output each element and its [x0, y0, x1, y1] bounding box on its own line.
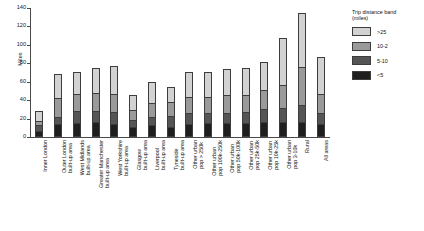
- bar-segment-<5: [224, 124, 230, 136]
- legend-title: Trip distance band (miles): [352, 9, 422, 22]
- bar-segment-<5: [299, 123, 305, 136]
- bar-13: [279, 38, 287, 138]
- bar-segment->25: [36, 112, 42, 121]
- bar-2: [73, 72, 81, 137]
- bar-5: [129, 95, 137, 137]
- bar-segment-10-2: [205, 98, 211, 114]
- bar-segment-5-10: [93, 112, 99, 123]
- bar-segment-10-2: [149, 104, 155, 118]
- bar-segment->25: [318, 58, 324, 95]
- bar-9: [204, 72, 212, 137]
- bar-segment-10-2: [168, 103, 174, 118]
- bar-segment-10-2: [111, 95, 117, 113]
- bar-segment-5-10: [149, 118, 155, 126]
- legend-items: >2510-25-10<5: [352, 26, 424, 82]
- x-axis-label-11: Other urban pop 25k-50k: [248, 140, 260, 170]
- bar-segment->25: [130, 96, 136, 111]
- bar-11: [242, 68, 250, 137]
- y-tick-label: 120: [17, 24, 26, 30]
- bar-8: [185, 72, 193, 137]
- figure-caption: [0, 219, 424, 231]
- bar-segment-<5: [93, 123, 99, 136]
- x-axis-label-8: Other urban pop > 250k: [192, 140, 204, 169]
- x-axis-label-4: West Yorkshire built-up area: [117, 140, 129, 176]
- legend-row: >25: [352, 26, 424, 38]
- y-tick-label: 40: [20, 97, 26, 103]
- bar-segment->25: [261, 63, 267, 91]
- bar-segment-5-10: [205, 114, 211, 124]
- bar-segment-<5: [280, 123, 286, 136]
- legend-label-10-2: 10-2: [377, 43, 388, 49]
- x-axis-labels: Inner LondonOuter London built-up areaWe…: [30, 140, 330, 225]
- y-tick-label: 140: [17, 5, 26, 11]
- bar-12: [260, 62, 268, 137]
- y-tick: [27, 137, 30, 138]
- bar-segment->25: [224, 70, 230, 96]
- bar-segment->25: [205, 73, 211, 98]
- bar-7: [167, 87, 175, 137]
- bar-segment-10-2: [224, 96, 230, 113]
- bar-segment-5-10: [111, 113, 117, 125]
- legend-swatch-10-2: [352, 42, 371, 51]
- bar-segment-5-10: [280, 109, 286, 123]
- bar-segment-<5: [168, 128, 174, 136]
- bar-segment-10-2: [243, 96, 249, 113]
- bar-segment-5-10: [186, 114, 192, 125]
- bar-segment-5-10: [74, 112, 80, 124]
- bar-segment->25: [299, 14, 305, 68]
- x-axis-label-7: Tyneside built-up area: [173, 140, 185, 170]
- bar-3: [92, 68, 100, 137]
- bar-segment-10-2: [318, 95, 324, 114]
- legend: Trip distance band (miles) >2510-25-10<5: [352, 9, 424, 84]
- bar-segment-10-2: [299, 68, 305, 106]
- x-axis-label-15: All areas: [323, 140, 329, 161]
- bar-segment-<5: [318, 125, 324, 136]
- y-tick-label: 20: [20, 116, 26, 122]
- bar-group: [30, 8, 330, 137]
- bar-segment->25: [149, 83, 155, 103]
- bar-segment->25: [93, 69, 99, 94]
- bar-segment-<5: [186, 125, 192, 136]
- bar-segment-<5: [243, 124, 249, 136]
- y-tick-label: 80: [20, 60, 26, 66]
- bar-segment-10-2: [93, 94, 99, 111]
- bar-segment-5-10: [55, 118, 61, 125]
- legend-swatch->25: [352, 27, 371, 36]
- bar-segment-<5: [55, 125, 61, 136]
- bar-segment-5-10: [224, 114, 230, 125]
- bar-segment-5-10: [299, 106, 305, 123]
- bar-segment-<5: [149, 126, 155, 136]
- bar-segment-<5: [130, 128, 136, 136]
- x-axis-label-13: Other urban pop 3-10k: [286, 140, 298, 169]
- legend-swatch-<5: [352, 71, 371, 80]
- stacked-bar-chart-figure: Miles 020406080100120140 Inner LondonOut…: [0, 0, 424, 231]
- y-tick-label: 0: [23, 134, 26, 140]
- x-axis-label-12: Other urban pop 10k-25k: [267, 140, 279, 170]
- bar-segment-10-2: [55, 99, 61, 118]
- bar-segment->25: [280, 39, 286, 87]
- legend-label-5-10: 5-10: [377, 58, 388, 64]
- bar-4: [110, 66, 118, 137]
- bar-segment-<5: [205, 124, 211, 136]
- y-tick-label: 60: [20, 79, 26, 85]
- legend-row: 10-2: [352, 40, 424, 52]
- bar-segment->25: [55, 75, 61, 99]
- bar-segment-10-2: [280, 86, 286, 109]
- bar-segment->25: [168, 88, 174, 103]
- bar-segment-<5: [261, 123, 267, 136]
- x-axis-label-1: Outer London built-up area: [61, 140, 73, 173]
- plot-area: 020406080100120140: [30, 8, 330, 138]
- bar-segment-5-10: [243, 113, 249, 124]
- bar-segment-<5: [36, 132, 42, 136]
- bar-segment-10-2: [74, 95, 80, 112]
- bar-segment->25: [243, 69, 249, 96]
- bar-segment-<5: [111, 125, 117, 136]
- x-axis-label-0: Inner London: [42, 140, 48, 172]
- bar-segment->25: [111, 67, 117, 95]
- bar-segment-<5: [74, 124, 80, 136]
- x-axis-label-6: Liverpool built-up area: [154, 140, 166, 170]
- x-axis-label-2: West Midlands built-up area: [79, 140, 91, 175]
- bar-segment-10-2: [186, 98, 192, 114]
- bar-segment-5-10: [318, 114, 324, 125]
- bar-segment-10-2: [261, 91, 267, 110]
